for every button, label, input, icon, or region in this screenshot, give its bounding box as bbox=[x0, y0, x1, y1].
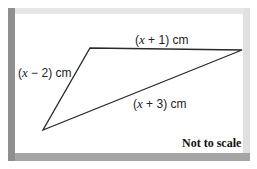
triangle-shape bbox=[43, 48, 242, 130]
side-label-left: (x − 2) cm bbox=[18, 66, 71, 80]
not-to-scale-note: Not to scale bbox=[182, 136, 241, 151]
side-label-top: (x + 1) cm bbox=[135, 33, 188, 47]
side-label-bottom: (x + 3) cm bbox=[133, 97, 186, 111]
